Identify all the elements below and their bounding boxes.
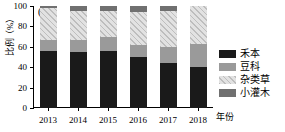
- x-tick-label: 2015: [91, 116, 125, 125]
- x-axis-title: 年份: [216, 113, 234, 122]
- bar-segment: [100, 11, 117, 37]
- x-tick-label: 2017: [151, 116, 185, 125]
- legend-swatch: [219, 76, 236, 84]
- x-tick-label: 2014: [61, 116, 95, 125]
- chart-figure: 比例（%） (b) 020406080100 20132014201520162…: [0, 0, 285, 132]
- stacked-bar: [70, 6, 87, 108]
- legend-label: 小灌木: [240, 87, 270, 99]
- stacked-bar: [160, 6, 177, 108]
- bar-segment: [70, 11, 87, 40]
- bar-segment: [70, 52, 87, 108]
- y-tick-label: 100: [3, 2, 27, 11]
- bar-segment: [40, 6, 57, 8]
- bar-segment: [100, 51, 117, 108]
- bar-segment: [40, 8, 57, 40]
- stacked-bar: [40, 6, 57, 108]
- y-tick-label: 0: [3, 104, 27, 113]
- bar-segment: [70, 6, 87, 11]
- x-tick-label: 2018: [181, 116, 215, 125]
- y-tick-mark: [30, 26, 34, 27]
- bar-segment: [160, 6, 177, 11]
- bar-segment: [190, 44, 207, 67]
- y-tick-label: 80: [3, 22, 27, 31]
- bar-segment: [40, 40, 57, 51]
- x-tick-label: 2013: [31, 116, 65, 125]
- y-tick-label: 20: [3, 84, 27, 93]
- legend-swatch: [219, 50, 236, 58]
- legend-label: 杂类草: [240, 74, 270, 86]
- x-tick-label: 2016: [121, 116, 155, 125]
- bar-segment: [160, 63, 177, 108]
- bar-segment: [190, 6, 207, 44]
- bar-segment: [130, 57, 147, 108]
- legend-item: 豆科: [219, 61, 285, 74]
- bar-segment: [130, 6, 147, 12]
- legend: 禾本豆科杂类草小灌木: [219, 48, 285, 100]
- legend-swatch: [219, 63, 236, 71]
- legend-item: 杂类草: [219, 74, 285, 87]
- stacked-bar: [100, 6, 117, 108]
- y-tick-mark: [30, 47, 34, 48]
- bar-segment: [40, 51, 57, 108]
- y-tick-mark: [30, 67, 34, 68]
- bar-segment: [160, 47, 177, 63]
- bar-segment: [130, 12, 147, 45]
- legend-item: 禾本: [219, 48, 285, 61]
- legend-label: 禾本: [240, 48, 260, 60]
- bar-segment: [130, 45, 147, 57]
- plot-area: (b) 020406080100 20132014201520162017201…: [33, 6, 213, 108]
- bar-segment: [190, 67, 207, 108]
- y-tick-label: 60: [3, 43, 27, 52]
- legend-label: 豆科: [240, 61, 260, 73]
- y-tick-mark: [30, 88, 34, 89]
- y-tick-mark: [30, 108, 34, 109]
- legend-swatch: [219, 89, 236, 97]
- stacked-bar: [190, 6, 207, 108]
- y-axis-line: [33, 6, 34, 108]
- bar-segment: [100, 6, 117, 11]
- x-axis-line: [33, 107, 213, 108]
- bar-segment: [100, 37, 117, 51]
- stacked-bar: [130, 6, 147, 108]
- y-tick-label: 40: [3, 63, 27, 72]
- y-tick-mark: [30, 6, 34, 7]
- bar-segment: [160, 11, 177, 47]
- bar-segment: [70, 40, 87, 52]
- legend-item: 小灌木: [219, 87, 285, 100]
